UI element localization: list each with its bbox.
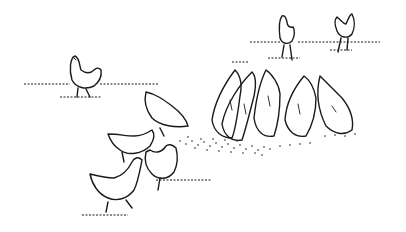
- chicken-foreground-middle-right: [145, 145, 177, 190]
- chicken-pecking-group: [212, 70, 353, 140]
- chicken-foreground-bottom: [90, 158, 142, 212]
- chicken-foreground-middle-left: [108, 130, 154, 162]
- chicken-standing-top-middle: [279, 16, 294, 60]
- chicken-standing-left: [70, 56, 101, 97]
- illustration-svg: [0, 0, 406, 232]
- chicken-illustration: [0, 0, 406, 232]
- chicken-standing-top-right: [335, 14, 354, 52]
- grass-lines: [24, 42, 380, 215]
